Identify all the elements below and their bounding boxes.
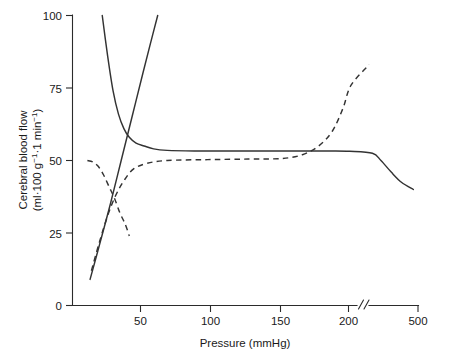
axis-break-slash-2 — [364, 300, 369, 309]
data-curves — [87, 16, 413, 280]
y-tick-label-50: 50 — [49, 155, 62, 167]
curve-impaired-autoregulation-plateau-dashed — [87, 161, 129, 236]
y-axis-title: Cerebral blood flow (ml·100 g−1·1 min−1) — [17, 109, 43, 212]
y-tick-marks — [66, 16, 73, 306]
x-tick-label-500: 500 — [408, 315, 427, 327]
x-tick-label-150: 150 — [271, 315, 290, 327]
cerebral-blood-flow-chart: 100 75 50 25 0 50 100 150 200 500 — [0, 0, 449, 359]
axis-group — [73, 15, 419, 306]
x-tick-label-50: 50 — [134, 315, 147, 327]
x-tick-label-200: 200 — [339, 315, 358, 327]
y-tick-labels: 100 75 50 25 0 — [43, 10, 62, 312]
x-axis-break-icon — [359, 300, 370, 309]
y-tick-label-0: 0 — [56, 300, 62, 312]
x-tick-labels: 50 100 150 200 500 — [134, 315, 427, 327]
x-tick-label-100: 100 — [201, 315, 220, 327]
y-tick-label-25: 25 — [49, 228, 62, 240]
y-axis-title-line2-suffix: ) — [31, 109, 43, 113]
chart-figure: 100 75 50 25 0 50 100 150 200 500 — [0, 0, 449, 359]
y-axis-title-line2: (ml·100 g−1·1 min−1) — [30, 109, 44, 212]
y-tick-label-100: 100 — [43, 10, 62, 22]
axis-break-slash-1 — [359, 300, 364, 309]
x-axis-title: Pressure (mmHg) — [200, 337, 291, 349]
y-axis-title-line1: Cerebral blood flow — [17, 110, 29, 210]
y-tick-label-75: 75 — [49, 83, 62, 95]
y-axis-title-line2-mid: ·1 min — [31, 122, 43, 154]
x-tick-marks — [141, 306, 419, 313]
y-axis-title-line2-prefix: (ml·100 g — [31, 163, 43, 212]
curve-shifted-autoregulation-dashed — [91, 65, 369, 271]
